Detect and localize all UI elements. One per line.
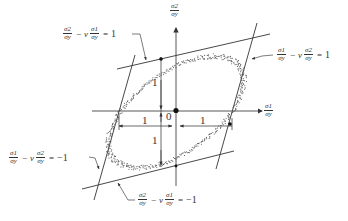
line-bottom bbox=[82, 151, 234, 189]
leader-right bbox=[252, 55, 273, 59]
origin-dot bbox=[173, 108, 178, 113]
x-axis-label: σ1σy bbox=[263, 103, 274, 118]
leader-bottom bbox=[118, 183, 135, 200]
line-left bbox=[94, 55, 135, 200]
equation-bottom: σ2σy − ν σ1σy = −1 bbox=[137, 192, 197, 207]
leader-left bbox=[89, 157, 99, 169]
dim-label-left: 1 bbox=[142, 114, 148, 126]
line-top bbox=[117, 34, 270, 69]
dim-label-right: 1 bbox=[200, 114, 206, 126]
equation-top: σ2σy − ν σ1σy = 1 bbox=[62, 26, 116, 41]
origin-label: 0 bbox=[166, 110, 172, 122]
dim-label-bottom: 1 bbox=[152, 134, 158, 146]
dim-label-top: 1 bbox=[152, 76, 158, 88]
leader-top bbox=[132, 34, 146, 60]
y-axis-label: σ2σy bbox=[169, 3, 180, 18]
equation-right: σ1σy − ν σ2σy = 1 bbox=[276, 47, 330, 62]
equation-left: σ1σy − ν σ2σy = −1 bbox=[8, 150, 68, 165]
yield-surface-plot bbox=[0, 0, 348, 221]
